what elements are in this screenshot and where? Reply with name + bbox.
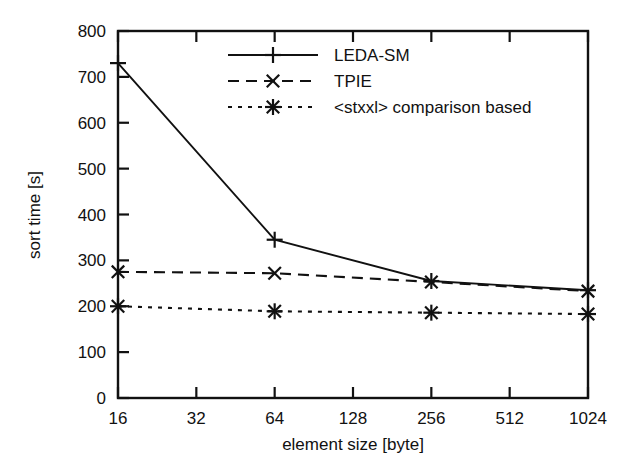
plus-marker — [265, 47, 281, 63]
x-axis-title: element size [byte] — [282, 435, 424, 454]
legend-entry: LEDA-SM — [228, 46, 410, 65]
x-axis-tick-labels: 1632641282565121024 — [109, 409, 607, 428]
x-tick-label: 16 — [109, 409, 128, 428]
x-tick-label: 128 — [339, 409, 367, 428]
series--stxxl-comparison-based — [110, 298, 596, 322]
y-tick-label: 800 — [78, 22, 106, 41]
y-tick-label: 100 — [78, 343, 106, 362]
series-layer — [110, 55, 596, 322]
x-tick-label: 1024 — [569, 409, 607, 428]
asterisk-marker — [267, 303, 283, 319]
y-tick-label: 500 — [78, 160, 106, 179]
y-tick-label: 700 — [78, 68, 106, 87]
y-tick-label: 200 — [78, 297, 106, 316]
series-path — [118, 272, 588, 291]
chart-figure: 0100200300400500600700800 16326412825651… — [0, 0, 637, 464]
series-path — [118, 306, 588, 314]
asterisk-marker — [110, 298, 126, 314]
legend-label: TPIE — [334, 72, 372, 91]
asterisk-marker — [580, 306, 596, 322]
asterisk-marker — [423, 305, 439, 321]
y-axis-ticks — [118, 31, 129, 398]
y-tick-label: 400 — [78, 206, 106, 225]
series-leda-sm — [110, 55, 596, 298]
legend-label: LEDA-SM — [334, 46, 410, 65]
x-tick-label: 256 — [417, 409, 445, 428]
legend-entry: TPIE — [228, 72, 372, 91]
asterisk-marker — [265, 99, 281, 115]
x-tick-label: 32 — [187, 409, 206, 428]
x-tick-label: 64 — [265, 409, 284, 428]
y-tick-label: 300 — [78, 251, 106, 270]
sort-time-line-chart: 0100200300400500600700800 16326412825651… — [0, 0, 637, 464]
y-axis-title: sort time [s] — [25, 171, 44, 259]
y-tick-label: 600 — [78, 114, 106, 133]
y-axis-tick-labels: 0100200300400500600700800 — [78, 22, 106, 408]
x-tick-label: 512 — [495, 409, 523, 428]
y-tick-label: 0 — [97, 389, 106, 408]
series-tpie — [112, 266, 594, 298]
chart-legend: LEDA-SMTPIE<stxxl> comparison based — [228, 46, 532, 117]
legend-entry: <stxxl> comparison based — [228, 98, 532, 117]
legend-label: <stxxl> comparison based — [334, 98, 532, 117]
